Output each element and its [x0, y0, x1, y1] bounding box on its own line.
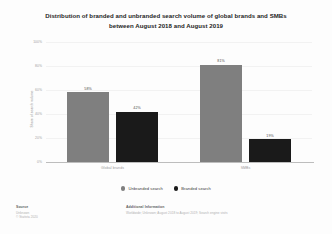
- y-axis-ticks: 100% 80% 60% 40% 20% 0%: [22, 42, 44, 162]
- legend-label: Branded search: [181, 186, 211, 191]
- footer-info-heading: Additional Information: [126, 205, 322, 209]
- bar-branded-smbs[interactable]: [249, 139, 291, 162]
- bar-unbranded-smbs[interactable]: [200, 65, 242, 162]
- legend-item-branded[interactable]: Branded search: [174, 186, 211, 191]
- y-tick-label: 80%: [35, 64, 42, 68]
- chart-footer: Source Unknown © Statista 2020 Additiona…: [16, 205, 322, 219]
- x-axis-label-smbs: SMBs: [179, 166, 312, 170]
- y-tick-label: 60%: [35, 88, 42, 92]
- legend-swatch-icon: [121, 186, 125, 190]
- y-tick-label: 40%: [35, 112, 42, 116]
- plot-area: Share of search volume 100% 80% 60% 40% …: [14, 42, 318, 176]
- bar-holder: 42%: [116, 42, 158, 162]
- bar-value-label: 19%: [249, 134, 291, 138]
- chart-title: Distribution of branded and unbranded se…: [18, 11, 314, 30]
- bar-holder: 81%: [200, 42, 242, 162]
- footer-info-column: Additional Information Worldwide; Unknow…: [126, 205, 322, 219]
- bar-holder: 19%: [249, 42, 291, 162]
- footer-source-heading: Source: [16, 205, 126, 209]
- bar-value-label: 81%: [200, 59, 242, 63]
- legend-swatch-icon: [174, 186, 178, 190]
- bar-value-label: 42%: [116, 106, 158, 110]
- x-axis-label-global-brands: Global brands: [46, 166, 179, 170]
- chart-title-line-1: Distribution of branded and unbranded se…: [18, 11, 314, 21]
- bar-group-smbs: 81% 19% SMBs: [179, 42, 312, 162]
- bar-holder: 58%: [67, 42, 109, 162]
- bar-unbranded-global-brands[interactable]: [67, 92, 109, 162]
- y-tick-label: 100%: [33, 40, 42, 44]
- bar-group-global-brands: 58% 42% Global brands: [46, 42, 179, 162]
- footer-source-column: Source Unknown © Statista 2020: [16, 205, 126, 219]
- bar-value-label: 58%: [67, 87, 109, 91]
- y-tick-label: 20%: [35, 136, 42, 140]
- legend-label: Unbranded search: [128, 186, 162, 191]
- footer-info-line: Worldwide; Unknown; August 2018 to Augus…: [126, 211, 322, 215]
- bar-branded-global-brands[interactable]: [116, 112, 158, 162]
- chart-title-line-2: between August 2018 and August 2019: [18, 21, 314, 31]
- y-tick-label: 0%: [37, 160, 42, 164]
- legend-item-unbranded[interactable]: Unbranded search: [121, 186, 163, 191]
- bars-layer: 58% 42% Global brands 81% 19% SM: [46, 42, 312, 162]
- chart-legend: Unbranded search Branded search: [0, 186, 332, 191]
- chart-card: Distribution of branded and unbranded se…: [0, 0, 332, 234]
- footer-source-line: © Statista 2020: [16, 215, 126, 219]
- x-axis-line: [46, 162, 314, 163]
